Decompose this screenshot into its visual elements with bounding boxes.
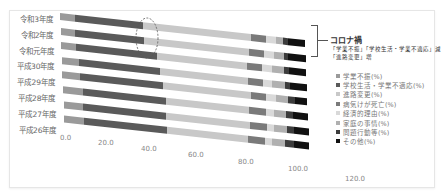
bar-segment xyxy=(62,57,79,66)
annotation-line-2: 「進路変更」増 xyxy=(330,53,372,61)
y-axis-label: 平成26年度 xyxy=(7,124,57,135)
bar-segment xyxy=(272,80,284,88)
legend-item: 学校生活・学業不適応(%) xyxy=(336,80,424,89)
legend-item: 経済的理由(%) xyxy=(336,109,424,118)
bar-segment xyxy=(60,13,75,22)
legend-item: 家庭の事情(%) xyxy=(336,118,424,127)
bar-segment xyxy=(276,95,288,103)
x-axis-tick-label: 0.0 xyxy=(60,134,71,142)
y-axis-label: 平成27年度 xyxy=(6,108,56,119)
bar-segment xyxy=(294,126,309,135)
x-axis-tick-label: 20.0 xyxy=(98,139,114,147)
legend-item: 問題行動等(%) xyxy=(336,127,424,136)
legend-item: 病気けが死亡(%) xyxy=(336,99,424,108)
bar-segment xyxy=(157,53,248,70)
bar-segment xyxy=(266,109,273,117)
bar-segment xyxy=(293,112,308,121)
bar-segment xyxy=(248,78,263,87)
bar-segment xyxy=(272,139,284,147)
legend-item: 学業不振(%) xyxy=(336,71,424,80)
y-axis-label: 令和3年度 xyxy=(3,13,53,24)
bar-segment xyxy=(288,97,295,105)
bar-segment xyxy=(79,59,160,75)
y-axis-label: 平成29年度 xyxy=(5,76,55,87)
bar-segment xyxy=(274,110,286,118)
bar-segment xyxy=(264,50,274,58)
legend-swatch-icon xyxy=(336,130,340,134)
annotation-line-1: 「学業不振」「学校生活・学業不適応」減 xyxy=(330,45,441,53)
legend-item: その他(%) xyxy=(336,137,424,146)
y-axis-label: 令和元年度 xyxy=(4,45,54,56)
bar-segment xyxy=(251,34,266,43)
x-axis-tick-label: 100.0 xyxy=(288,165,308,173)
legend-swatch-icon xyxy=(336,102,340,106)
legend-swatch-icon xyxy=(336,139,340,143)
bar-segment xyxy=(290,82,307,91)
x-axis-tick-label: 40.0 xyxy=(141,145,157,153)
bar-segment xyxy=(262,64,272,72)
y-axis-label: 平成30年度 xyxy=(5,60,55,71)
bar-segment xyxy=(272,66,284,74)
bar-segment xyxy=(263,79,273,87)
bar-segment xyxy=(83,88,166,104)
bar-segment xyxy=(285,140,295,148)
highlight-ellipse xyxy=(134,16,160,60)
bar-segment xyxy=(265,138,272,146)
brace-pointer xyxy=(318,40,328,41)
bar-segment xyxy=(266,36,276,44)
bar-segment xyxy=(274,124,286,132)
bar-segment xyxy=(248,136,265,145)
bar-segment xyxy=(163,83,251,100)
bar-segment xyxy=(274,51,284,59)
bar-segment xyxy=(84,118,167,134)
bar-segment xyxy=(266,94,276,102)
bar-segment xyxy=(249,48,264,57)
legend-swatch-icon xyxy=(336,74,340,78)
bar-segment xyxy=(247,63,262,72)
legend-swatch-icon xyxy=(336,92,340,96)
bar-segment xyxy=(294,141,309,150)
legend-item: 進路変更(%) xyxy=(336,90,424,99)
legend-swatch-icon xyxy=(336,83,340,87)
bar-segment xyxy=(288,38,305,47)
bar-segment xyxy=(276,37,283,45)
bar-segment xyxy=(166,112,249,128)
annotation-title: コロナ禍 xyxy=(330,34,362,45)
bar-segment xyxy=(249,107,266,116)
bar-segment xyxy=(251,92,266,101)
bar-segment xyxy=(295,97,307,105)
x-axis-tick-label: 60.0 xyxy=(188,151,204,159)
legend: 学業不振(%)学校生活・学業不適応(%)進路変更(%)病気けが死亡(%)経済的理… xyxy=(336,71,424,146)
bar-segment xyxy=(287,126,294,134)
bar-segment xyxy=(289,67,306,76)
stacked-bar-plot xyxy=(60,13,305,170)
bar-segment xyxy=(267,123,274,131)
bar-segment xyxy=(160,68,248,85)
bar-segment xyxy=(64,101,84,110)
bar-segment xyxy=(286,111,293,119)
bar-segment xyxy=(61,28,76,37)
bar-segment xyxy=(80,74,163,90)
brace-icon xyxy=(311,25,318,57)
bar-segment xyxy=(288,53,305,62)
legend-swatch-icon xyxy=(336,111,340,115)
y-axis-label: 平成28年度 xyxy=(6,92,56,103)
legend-label: その他(%) xyxy=(343,136,375,146)
bar-segment xyxy=(62,72,79,81)
bar-segment xyxy=(250,122,267,131)
x-axis-tick-label: 120.0 xyxy=(345,175,365,183)
bar-segment xyxy=(83,103,166,119)
x-axis-tick-label: 80.0 xyxy=(238,158,254,166)
y-axis-label: 令和2年度 xyxy=(4,29,54,40)
bar-segment xyxy=(61,42,76,51)
bar-segment xyxy=(166,98,249,114)
legend-swatch-icon xyxy=(336,121,340,125)
bar-segment xyxy=(64,116,84,125)
bar-segment xyxy=(63,86,83,95)
bar-segment xyxy=(167,127,248,143)
